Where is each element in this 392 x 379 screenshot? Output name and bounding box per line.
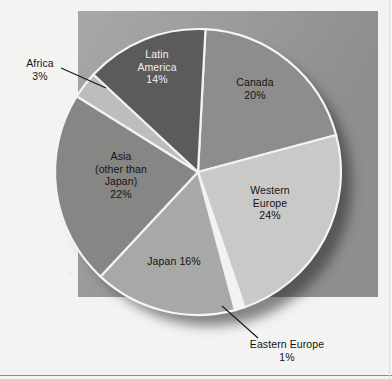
- slice-label-western-europe: Western Europe 24%: [228, 184, 312, 222]
- slice-label-japan: Japan 16%: [126, 255, 222, 268]
- slice-label-eastern-europe: Eastern Europe 1%: [212, 338, 362, 363]
- slice-label-asia: Asia (other than Japan) 22%: [72, 150, 170, 200]
- eastern-europe-leader-line: [220, 305, 264, 341]
- slice-label-latin-america: Latin America 14%: [118, 48, 196, 86]
- right-rule: [389, 0, 390, 379]
- slice-label-canada: Canada 20%: [216, 76, 294, 101]
- pie-chart-figure: Latin America 14% Canada 20% Western Eur…: [0, 0, 392, 379]
- africa-leader-line: [60, 62, 108, 92]
- bottom-rule: [0, 375, 392, 376]
